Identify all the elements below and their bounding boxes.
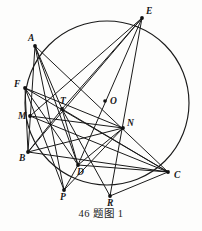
point-label-f: F (13, 79, 21, 89)
vertex-dot-e (140, 16, 144, 20)
geometry-figure: AEFMBPRCTNDO 46 题图 1 (0, 0, 202, 231)
segment-pn (64, 128, 123, 190)
segment-tc (62, 109, 168, 172)
geometry-svg-canvas: AEFMBPRCTNDO (0, 0, 202, 231)
center-dot-o (103, 99, 107, 103)
segment-ap (35, 46, 64, 190)
point-label-d: D (76, 167, 84, 177)
vertex-dot-a (33, 44, 37, 48)
point-label-o: O (110, 96, 117, 106)
segment-bc (28, 152, 168, 172)
figure-caption: 46 题图 1 (0, 205, 202, 220)
point-label-c: C (174, 170, 181, 180)
point-label-a: A (27, 33, 34, 43)
segment-bt (28, 109, 62, 152)
point-label-m: M (17, 111, 27, 121)
vertex-dot-t (60, 107, 64, 111)
segment-et (62, 18, 142, 109)
point-label-p: P (60, 192, 66, 202)
vertex-dot-n (121, 126, 125, 130)
vertex-dot-b (26, 150, 30, 154)
vertex-dot-c (166, 170, 170, 174)
point-label-n: N (126, 118, 135, 128)
segment-ed (78, 18, 142, 165)
vertex-dot-f (23, 86, 27, 90)
point-label-e: E (145, 6, 152, 16)
point-label-b: B (18, 153, 25, 163)
vertex-dot-m (28, 114, 32, 118)
chord-lines-group (25, 18, 168, 196)
